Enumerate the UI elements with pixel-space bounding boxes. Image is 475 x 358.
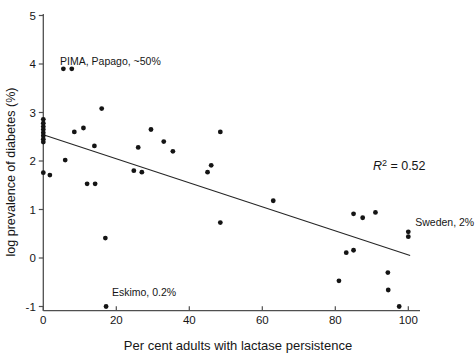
- x-tick-label: 20: [110, 314, 123, 326]
- data-point: [139, 170, 144, 175]
- data-point: [136, 145, 141, 150]
- data-point: [337, 278, 342, 283]
- data-point: [218, 220, 223, 225]
- data-point: [385, 270, 390, 275]
- x-tick-label: 60: [256, 314, 269, 326]
- data-point: [72, 130, 77, 135]
- data-point: [85, 181, 90, 186]
- data-point: [103, 236, 108, 241]
- y-tick-label: 2: [29, 155, 35, 167]
- annotation-eskimo: Eskimo, 0.2%: [112, 286, 176, 298]
- annotation-sweden: Sweden, 2%: [415, 216, 474, 228]
- data-point: [92, 144, 97, 149]
- y-tick-label: 1: [29, 204, 35, 216]
- data-point: [344, 250, 349, 255]
- annotation-pima-papago: PIMA, Papago, ~50%: [60, 55, 161, 67]
- data-point: [47, 173, 52, 178]
- data-point: [205, 170, 210, 175]
- data-point: [406, 229, 411, 234]
- data-point: [41, 140, 46, 145]
- data-point: [81, 126, 86, 131]
- data-point: [397, 304, 402, 309]
- x-tick-label: 80: [329, 314, 342, 326]
- x-tick-label: 40: [183, 314, 196, 326]
- data-point: [209, 163, 214, 168]
- data-point: [69, 66, 74, 71]
- y-axis-label: log prevalence of diabetes (%): [4, 88, 18, 257]
- data-point: [131, 168, 136, 173]
- y-tick-label: 0: [29, 252, 35, 264]
- data-point: [218, 130, 223, 135]
- data-point: [170, 149, 175, 154]
- scatter-chart-figure: 543210-1020406080100 PIMA, Papago, ~50% …: [0, 0, 475, 358]
- data-point: [99, 106, 104, 111]
- r-squared-symbol: R: [373, 159, 382, 173]
- data-point: [63, 158, 68, 163]
- trend-line: [43, 135, 410, 256]
- x-tick-label: 0: [40, 314, 46, 326]
- annotation-r-squared: R2 = 0.52: [373, 159, 426, 173]
- data-point: [93, 181, 98, 186]
- data-point: [373, 210, 378, 215]
- y-tick-label: 3: [29, 107, 35, 119]
- x-tick-label: 100: [399, 314, 418, 326]
- data-point: [149, 127, 154, 132]
- r-squared-exponent: 2: [382, 158, 387, 168]
- y-tick-label: 5: [29, 10, 35, 22]
- data-point: [271, 198, 276, 203]
- data-point: [41, 170, 46, 175]
- y-tick-label: 4: [29, 58, 36, 70]
- data-point: [161, 139, 166, 144]
- data-point: [406, 234, 411, 239]
- x-axis-label: Per cent adults with lactase persistence: [124, 338, 352, 353]
- r-squared-value: = 0.52: [387, 159, 426, 173]
- data-point: [351, 248, 356, 253]
- data-point: [61, 66, 66, 71]
- data-point: [351, 211, 356, 216]
- data-point: [386, 288, 391, 293]
- y-tick-label: -1: [26, 301, 36, 313]
- data-point: [104, 304, 109, 309]
- data-point: [360, 215, 365, 220]
